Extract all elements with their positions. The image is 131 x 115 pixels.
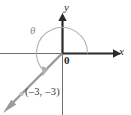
terminal-ray-line <box>9 54 62 107</box>
angle-theta-label: θ <box>30 25 35 36</box>
point-marker <box>19 92 23 96</box>
origin-label: 0 <box>64 55 70 66</box>
point-coordinate-label: (–3, –3) <box>25 87 60 98</box>
x-axis-label: x <box>119 46 124 57</box>
y-axis-arrowhead-icon <box>58 13 66 21</box>
angle-diagram: x y 0 θ (–3, –3) <box>0 0 131 115</box>
y-axis-label: y <box>64 2 69 13</box>
